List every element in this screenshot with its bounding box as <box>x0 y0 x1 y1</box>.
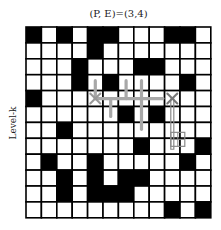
free-cell <box>26 154 41 170</box>
free-cell <box>118 154 133 170</box>
blocked-cell <box>57 122 72 138</box>
free-cell <box>103 138 118 154</box>
free-cell <box>103 202 118 218</box>
blocked-cell <box>165 27 180 43</box>
blocked-cell <box>195 138 210 154</box>
blocked-cell <box>165 202 180 218</box>
free-cell <box>72 154 87 170</box>
free-cell <box>195 170 210 186</box>
free-cell <box>118 122 133 138</box>
free-cell <box>165 59 180 75</box>
free-cell <box>180 59 195 75</box>
blocked-cell <box>118 107 133 123</box>
grid-board <box>0 0 221 230</box>
free-cell <box>134 27 149 43</box>
blocked-cell <box>195 202 210 218</box>
free-cell <box>41 43 56 59</box>
free-cell <box>57 107 72 123</box>
free-cell <box>180 170 195 186</box>
free-cell <box>72 202 87 218</box>
free-cell <box>26 170 41 186</box>
free-cell <box>134 43 149 59</box>
free-cell <box>88 107 103 123</box>
free-cell <box>88 138 103 154</box>
free-cell <box>165 75 180 91</box>
blocked-cell <box>103 75 118 91</box>
free-cell <box>165 186 180 202</box>
blocked-cell <box>118 170 133 186</box>
free-cell <box>41 138 56 154</box>
free-cell <box>195 27 210 43</box>
free-cell <box>134 186 149 202</box>
free-cell <box>72 27 87 43</box>
blocked-cell <box>88 186 103 202</box>
blocked-cell <box>72 75 87 91</box>
free-cell <box>165 107 180 123</box>
free-cell <box>72 186 87 202</box>
free-cell <box>26 107 41 123</box>
free-cell <box>149 170 164 186</box>
blocked-cell <box>57 186 72 202</box>
blocked-cell <box>134 59 149 75</box>
free-cell <box>149 186 164 202</box>
free-cell <box>88 59 103 75</box>
blocked-cell <box>57 27 72 43</box>
free-cell <box>41 122 56 138</box>
free-cell <box>195 107 210 123</box>
free-cell <box>26 59 41 75</box>
free-cell <box>195 43 210 59</box>
free-cell <box>118 59 133 75</box>
free-cell <box>41 170 56 186</box>
free-cell <box>134 154 149 170</box>
free-cell <box>134 202 149 218</box>
free-cell <box>180 122 195 138</box>
free-cell <box>118 138 133 154</box>
free-cell <box>72 138 87 154</box>
free-cell <box>26 202 41 218</box>
free-cell <box>57 91 72 107</box>
free-cell <box>72 170 87 186</box>
free-cell <box>165 43 180 59</box>
blocked-cell <box>57 170 72 186</box>
blocked-cell <box>118 186 133 202</box>
free-cell <box>57 59 72 75</box>
blocked-cell <box>88 27 103 43</box>
blocked-cell <box>26 91 41 107</box>
free-cell <box>41 27 56 43</box>
free-cell <box>72 43 87 59</box>
free-cell <box>72 122 87 138</box>
free-cell <box>41 91 56 107</box>
free-cell <box>118 202 133 218</box>
free-cell <box>72 91 87 107</box>
free-cell <box>103 43 118 59</box>
blocked-cell <box>103 186 118 202</box>
free-cell <box>180 186 195 202</box>
free-cell <box>195 91 210 107</box>
free-cell <box>41 186 56 202</box>
free-cell <box>57 138 72 154</box>
free-cell <box>180 91 195 107</box>
blocked-cell <box>134 170 149 186</box>
free-cell <box>103 154 118 170</box>
free-cell <box>41 59 56 75</box>
free-cell <box>26 43 41 59</box>
free-cell <box>72 107 87 123</box>
free-cell <box>180 43 195 59</box>
free-cell <box>57 43 72 59</box>
free-cell <box>103 59 118 75</box>
blocked-cell <box>72 59 87 75</box>
free-cell <box>88 202 103 218</box>
free-cell <box>41 75 56 91</box>
blocked-cell <box>180 75 195 91</box>
blocked-cell <box>149 107 164 123</box>
blocked-cell <box>134 138 149 154</box>
free-cell <box>149 27 164 43</box>
free-cell <box>41 202 56 218</box>
blocked-cell <box>88 170 103 186</box>
blocked-cell <box>103 27 118 43</box>
free-cell <box>103 122 118 138</box>
free-cell <box>103 170 118 186</box>
free-cell <box>26 122 41 138</box>
free-cell <box>118 43 133 59</box>
free-cell <box>149 43 164 59</box>
